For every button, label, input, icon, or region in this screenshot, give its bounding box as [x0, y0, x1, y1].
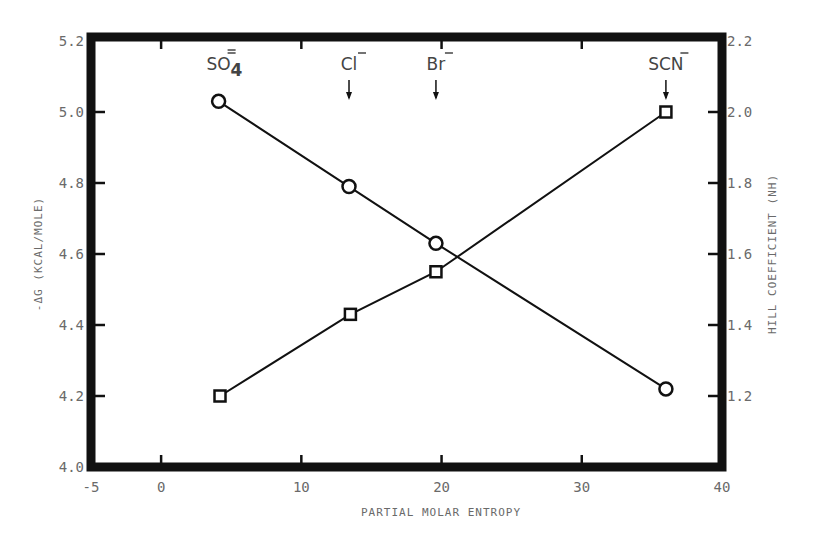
x-tick-label: 10 [293, 479, 310, 495]
y-tick-label: 5.0 [59, 104, 84, 120]
arrow-head-icon [663, 92, 669, 100]
y2-tick-label: 1.6 [727, 246, 752, 262]
square-marker [660, 107, 671, 118]
square-marker [345, 309, 356, 320]
ion-annotations: SO4ClBrSCN [207, 50, 689, 100]
circle-marker [429, 237, 442, 250]
y-tick-label: 4.4 [59, 317, 84, 333]
x-tick-label: -5 [83, 479, 100, 495]
ion-label-text: Br [427, 54, 446, 74]
y-tick-label: 4.2 [59, 388, 84, 404]
square-marker [215, 391, 226, 402]
y-axis-title: -ΔG (KCAL/MOLE) [32, 197, 45, 311]
x-tick-label: 30 [573, 479, 590, 495]
series-line [220, 112, 666, 396]
y2-tick-label: 2.0 [727, 104, 752, 120]
ion-subscript: 4 [231, 60, 243, 80]
y-tick-label: 4.6 [59, 246, 84, 262]
plot-border [91, 37, 722, 467]
ion-label: SO4 [207, 50, 243, 80]
ion-label-text: SO [207, 54, 231, 74]
y-tick-label: 4.8 [59, 175, 84, 191]
y-tick-label: 4.0 [59, 459, 84, 475]
axis-ticks [95, 41, 718, 463]
x-tick-label: 0 [157, 479, 165, 495]
x-tick-label: 40 [714, 479, 731, 495]
ion-label: SCN [648, 53, 688, 100]
circle-marker [343, 180, 356, 193]
ion-label: Cl [341, 53, 366, 100]
y2-tick-label: 1.8 [727, 175, 752, 191]
y2-tick-label: 1.2 [727, 388, 752, 404]
circle-marker [212, 95, 225, 108]
square-marker [430, 266, 441, 277]
arrow-head-icon [346, 92, 352, 100]
ion-label: Br [427, 53, 453, 100]
tick-labels: -50102030404.04.24.44.64.85.05.21.21.41.… [59, 33, 753, 495]
x-axis-title: PARTIAL MOLAR ENTROPY [361, 506, 521, 519]
circle-marker [659, 382, 672, 395]
ion-label-text: SCN [648, 54, 683, 74]
x-tick-label: 20 [433, 479, 450, 495]
arrow-head-icon [433, 92, 439, 100]
y-tick-label: 5.2 [59, 33, 84, 49]
y2-axis-title: HILL COEFFICIENT (NH) [766, 174, 779, 334]
y2-tick-label: 1.4 [727, 317, 752, 333]
plot-frame [91, 37, 722, 467]
ion-label-text: Cl [341, 54, 358, 74]
y2-tick-label: 2.2 [727, 33, 752, 49]
chart: -50102030404.04.24.44.64.85.05.21.21.41.… [0, 0, 816, 539]
series-lines [219, 101, 666, 396]
